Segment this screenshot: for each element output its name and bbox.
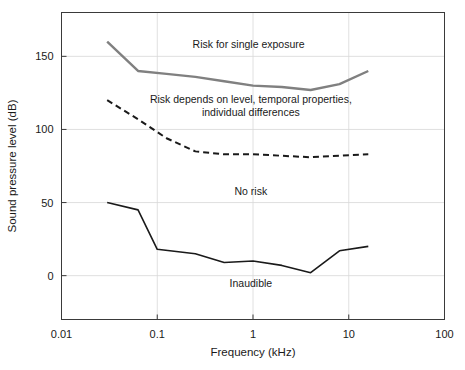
data-series <box>107 42 368 273</box>
x-tick-label-0.1: 0.1 <box>150 328 165 340</box>
y-tick-label-50: 50 <box>41 197 53 209</box>
annotation-text-risk-single-exposure-0: Risk for single exposure <box>193 38 305 50</box>
y-tick-label-0: 0 <box>47 270 53 282</box>
annotation-no-risk: No risk <box>235 185 268 197</box>
annotation-text-risk-depends-1: individual differences <box>202 106 300 118</box>
y-axis-title: Sound pressure level (dB) <box>6 99 18 232</box>
grid-lines <box>62 13 445 320</box>
annotation-text-risk-depends-0: Risk depends on level, temporal properti… <box>150 93 352 105</box>
annotation-risk-depends: Risk depends on level, temporal properti… <box>150 93 352 118</box>
annotation-risk-single-exposure: Risk for single exposure <box>193 38 305 50</box>
series-line-2 <box>107 203 368 273</box>
x-tick-label-0.01: 0.01 <box>51 328 72 340</box>
x-tick-label-1: 1 <box>250 328 256 340</box>
chart-canvas: 0501001500.010.1110100 Risk for single e… <box>0 0 465 370</box>
x-tick-label-10: 10 <box>343 328 355 340</box>
x-tick-label-100: 100 <box>435 328 453 340</box>
annotation-text-no-risk-0: No risk <box>235 185 268 197</box>
x-axis-title: Frequency (kHz) <box>211 346 296 358</box>
annotation-text-inaudible-0: Inaudible <box>230 277 273 289</box>
y-tick-label-100: 100 <box>35 123 53 135</box>
chart-figure: 0501001500.010.1110100 Risk for single e… <box>0 0 465 370</box>
y-tick-label-150: 150 <box>35 50 53 62</box>
annotation-inaudible: Inaudible <box>230 277 273 289</box>
